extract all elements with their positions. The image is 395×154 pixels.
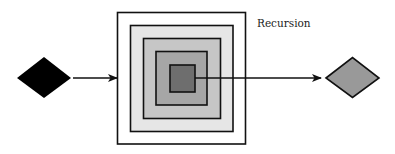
output-diamond-node — [326, 58, 379, 98]
square-level-5 — [170, 65, 195, 92]
recursion-label: Recursion — [257, 17, 311, 29]
input-diamond-node — [17, 57, 71, 98]
recursion-diagram: Recursion — [0, 0, 395, 154]
